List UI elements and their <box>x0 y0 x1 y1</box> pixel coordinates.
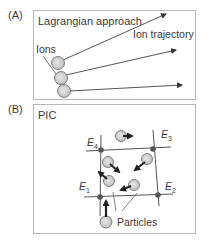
ion-circle-2 <box>55 72 68 85</box>
panel-b: (B) PIC E4 E3 E1 E2 <box>8 103 196 234</box>
panel-a-title: Lagrangian approach <box>38 15 142 27</box>
diagram-canvas: (A) Lagrangian approach Ion trajectory I… <box>0 0 206 246</box>
panel-b-title: PIC <box>38 109 56 121</box>
node-e4 <box>98 147 104 153</box>
particles-label: Particles <box>117 216 157 228</box>
ions-label: Ions <box>36 43 56 55</box>
node-e3 <box>150 146 156 152</box>
ion-circle-3 <box>58 85 71 98</box>
ion-circle-1 <box>52 57 65 70</box>
trajectory-label: Ion trajectory <box>133 28 194 40</box>
node-e2 <box>155 192 161 198</box>
panel-a: (A) Lagrangian approach Ion trajectory I… <box>8 9 196 100</box>
panel-b-tag: (B) <box>8 103 23 115</box>
panel-a-tag: (A) <box>8 9 23 21</box>
node-e1 <box>97 194 103 200</box>
